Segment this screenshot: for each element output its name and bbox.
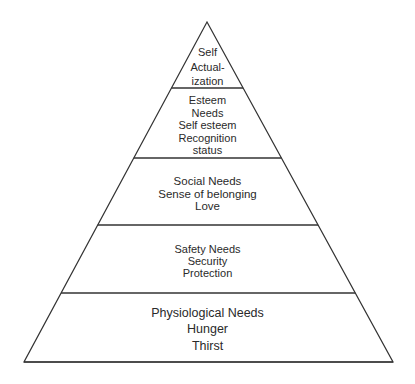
tier-social-needs: Social Needs Sense of belonging Love [0, 175, 415, 213]
tier-self-actualization: Self Actual- ization [0, 45, 415, 89]
tier-label: Self esteem [0, 119, 415, 132]
tier-label: Thirst [0, 338, 415, 354]
tier-label: Esteem [0, 94, 415, 107]
tier-label: Love [0, 200, 415, 213]
tier-safety-needs: Safety Needs Security Protection [0, 244, 415, 279]
tier-esteem-needs: Esteem Needs Self esteem Recognition sta… [0, 94, 415, 157]
tier-label: Self [0, 45, 415, 60]
tier-physiological-needs: Physiological Needs Hunger Thirst [0, 305, 415, 354]
tier-label: Security [0, 256, 415, 268]
tier-label: status [0, 144, 415, 157]
tier-label: Protection [0, 268, 415, 280]
tier-label: ization [0, 74, 415, 89]
tier-label: Needs [0, 107, 415, 120]
tier-label: Physiological Needs [0, 305, 415, 321]
tier-label: Actual- [0, 60, 415, 75]
tier-label: Recognition [0, 132, 415, 145]
tier-label: Sense of belonging [0, 188, 415, 201]
tier-label: Social Needs [0, 175, 415, 188]
tier-label: Hunger [0, 321, 415, 337]
pyramid-diagram: Self Actual- ization Esteem Needs Self e… [0, 0, 415, 384]
